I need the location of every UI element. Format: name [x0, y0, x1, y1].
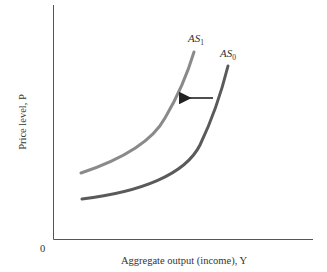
as0-label: AS0: [219, 47, 236, 62]
origin-label: 0: [40, 243, 45, 254]
as1-curve: [81, 52, 194, 173]
y-axis-label: Price level, P: [17, 94, 28, 150]
x-axis-label: Aggregate output (income), Y: [121, 255, 248, 267]
chart: AS1 AS0 0 Aggregate output (income), Y P…: [0, 0, 327, 272]
as1-label: AS1: [187, 32, 204, 47]
